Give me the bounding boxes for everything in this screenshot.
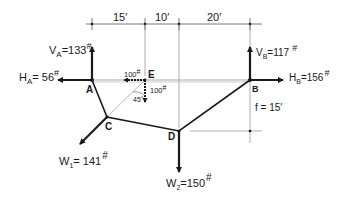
- extension-lines: [92, 24, 262, 143]
- w1-arrow: [80, 117, 107, 144]
- span-label-2: 10′: [155, 11, 169, 23]
- node-b-label: B: [252, 84, 259, 94]
- w2-label: W2=150#: [166, 172, 212, 191]
- node-a-label: A: [86, 84, 93, 95]
- sag-dimension-tick: [249, 130, 252, 133]
- hb-label: HB=156#: [289, 68, 329, 85]
- svg-text:HA= 56#: HA= 56#: [19, 68, 59, 86]
- node-d-label: D: [168, 131, 175, 142]
- vb-label: VB=117#: [256, 43, 297, 60]
- span-label-1: 15′: [113, 11, 127, 23]
- svg-text:VA=133#: VA=133#: [49, 41, 91, 59]
- node-c-label: C: [105, 121, 112, 132]
- node-dots: [90, 78, 252, 133]
- node-e-label: E: [148, 69, 155, 80]
- w1-label: W1= 141#: [59, 150, 108, 169]
- svg-text:W1= 141#: W1= 141#: [59, 150, 108, 169]
- angle-label: 45°: [133, 96, 144, 103]
- e-horizontal-label: 100#: [124, 68, 141, 79]
- cable: [92, 80, 250, 131]
- svg-text:VB=117#: VB=117#: [256, 43, 297, 60]
- e-vertical-label: 100#: [150, 84, 167, 95]
- ha-label: HA= 56#: [19, 68, 59, 86]
- span-label-3: 20′: [207, 11, 221, 23]
- svg-text:HB=156#: HB=156#: [289, 68, 329, 85]
- sag-label: f = 15′: [255, 102, 282, 113]
- force-diagram: 15′ 10′ 20′ f = 15′ A B C D E VA=133# HA…: [0, 0, 352, 206]
- svg-text:W2=150#: W2=150#: [166, 172, 212, 191]
- va-label: VA=133#: [49, 41, 91, 59]
